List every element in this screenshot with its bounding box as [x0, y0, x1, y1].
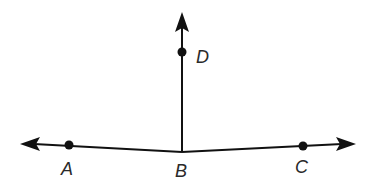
ray-ba — [20, 137, 182, 152]
ray-bd — [175, 12, 189, 152]
geometry-diagram: A B C D — [0, 0, 372, 190]
label-c: C — [295, 157, 309, 177]
point-c — [299, 142, 308, 151]
ray-bc — [182, 137, 356, 152]
point-a — [65, 141, 74, 150]
point-d — [178, 48, 187, 57]
label-b: B — [175, 161, 187, 181]
label-d: D — [196, 47, 209, 67]
label-a: A — [60, 159, 73, 179]
